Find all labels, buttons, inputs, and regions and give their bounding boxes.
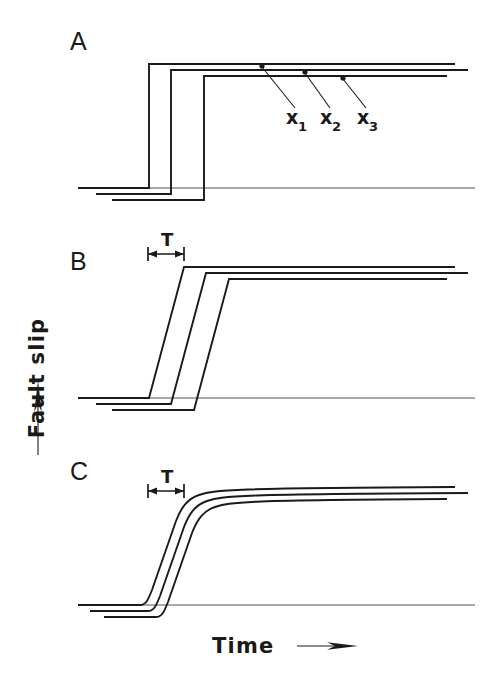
svg-text:3: 3	[369, 119, 378, 134]
panel-c-trace-x3	[104, 499, 447, 617]
leader-line-x2	[305, 73, 330, 108]
panel-a-trace-x1	[78, 64, 455, 188]
svg-text:2: 2	[332, 119, 341, 134]
svg-text:x: x	[357, 106, 369, 128]
panel-c-letter: C	[70, 457, 88, 485]
panel-a-trace-x3	[112, 76, 447, 200]
panel-c: C T	[70, 457, 475, 617]
panel-b-letter: B	[70, 247, 87, 275]
panel-b: B T	[70, 229, 475, 410]
x-axis-arrow-icon	[297, 642, 358, 650]
station-label-x3: x 3	[357, 106, 378, 134]
svg-text:x: x	[286, 106, 298, 128]
y-axis-group: Fault slip	[25, 318, 49, 455]
leader-line-x1	[262, 67, 295, 108]
panel-a-letter: A	[70, 27, 87, 55]
panel-c-duration-marker: T	[148, 466, 184, 498]
x-axis-group: Time	[212, 634, 358, 658]
station-label-x2: x 2	[320, 106, 341, 134]
x-axis-label: Time	[212, 634, 274, 658]
panel-a: A x 1 x	[70, 27, 475, 200]
station-label-x1: x 1	[286, 106, 307, 134]
panel-c-trace-x2	[90, 493, 468, 611]
panel-c-duration-label: T	[161, 466, 174, 487]
figure-canvas: Fault slip Time A	[0, 0, 503, 678]
svg-text:1: 1	[298, 119, 307, 134]
panel-b-duration-marker: T	[148, 229, 184, 261]
svg-text:x: x	[320, 106, 332, 128]
fault-slip-time-history-figure: Fault slip Time A	[0, 0, 503, 678]
panel-a-trace-x2	[96, 70, 468, 194]
leader-line-x3	[343, 79, 366, 108]
panel-b-trace-x3	[112, 279, 447, 410]
y-axis-label: Fault slip	[25, 318, 49, 439]
panel-a-station-annotations: x 1 x 2 x 3	[259, 63, 378, 134]
panel-b-trace-x1	[78, 267, 455, 398]
panel-c-trace-x1	[78, 487, 455, 605]
panel-b-duration-label: T	[161, 229, 174, 250]
